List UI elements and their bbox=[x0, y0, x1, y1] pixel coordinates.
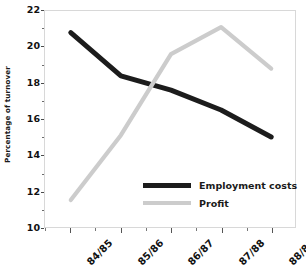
x-tick-mark-minor bbox=[146, 228, 147, 231]
x-tick-label: 87/88 bbox=[237, 238, 266, 267]
x-tick-label: 85/86 bbox=[136, 238, 165, 267]
y-tick-label: 18 bbox=[14, 78, 40, 88]
legend-label-profit: Profit bbox=[199, 198, 229, 209]
y-tick-label: 16 bbox=[14, 114, 40, 124]
y-tick-label: 14 bbox=[14, 151, 40, 161]
legend-label-employment-costs: Employment costs bbox=[199, 180, 297, 191]
y-axis-title: Percentage of turnover bbox=[0, 0, 14, 228]
legend-item-employment-costs: Employment costs bbox=[143, 176, 293, 194]
x-tick-mark-major bbox=[121, 228, 122, 233]
x-tick-mark-minor bbox=[45, 228, 46, 231]
legend-swatch-profit bbox=[143, 201, 191, 205]
x-tick-label: 84/85 bbox=[85, 238, 114, 267]
x-tick-mark-minor bbox=[95, 228, 96, 231]
line-chart: Percentage of turnover 10121416182022 84… bbox=[0, 0, 306, 278]
x-tick-mark-major bbox=[171, 228, 172, 233]
x-tick-mark-minor bbox=[196, 228, 197, 231]
x-tick-label: 88/89 bbox=[287, 238, 306, 267]
x-tick-mark-major bbox=[272, 228, 273, 233]
x-tick-mark-minor bbox=[247, 228, 248, 231]
y-tick-label: 10 bbox=[14, 223, 40, 233]
chart-legend: Employment costs Profit bbox=[143, 176, 293, 212]
legend-item-profit: Profit bbox=[143, 194, 293, 212]
legend-swatch-employment-costs bbox=[143, 183, 191, 188]
y-tick-label: 22 bbox=[14, 5, 40, 15]
y-tick-label: 20 bbox=[14, 42, 40, 52]
y-axis-title-label: Percentage of turnover bbox=[3, 66, 12, 163]
x-axis-tick-labels: 84/8585/8686/8787/8888/89 bbox=[0, 234, 306, 278]
series-line-profit bbox=[71, 27, 271, 200]
series-line-employment-costs bbox=[71, 33, 271, 137]
y-axis-tick-labels: 10121416182022 bbox=[14, 10, 40, 228]
x-tick-mark-major bbox=[70, 228, 71, 233]
y-tick-label: 12 bbox=[14, 187, 40, 197]
x-tick-label: 86/87 bbox=[186, 238, 215, 267]
x-tick-mark-major bbox=[222, 228, 223, 233]
